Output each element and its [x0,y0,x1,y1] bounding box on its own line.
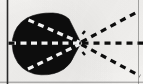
figure-canvas [0,0,143,84]
figure-svg [0,0,143,84]
